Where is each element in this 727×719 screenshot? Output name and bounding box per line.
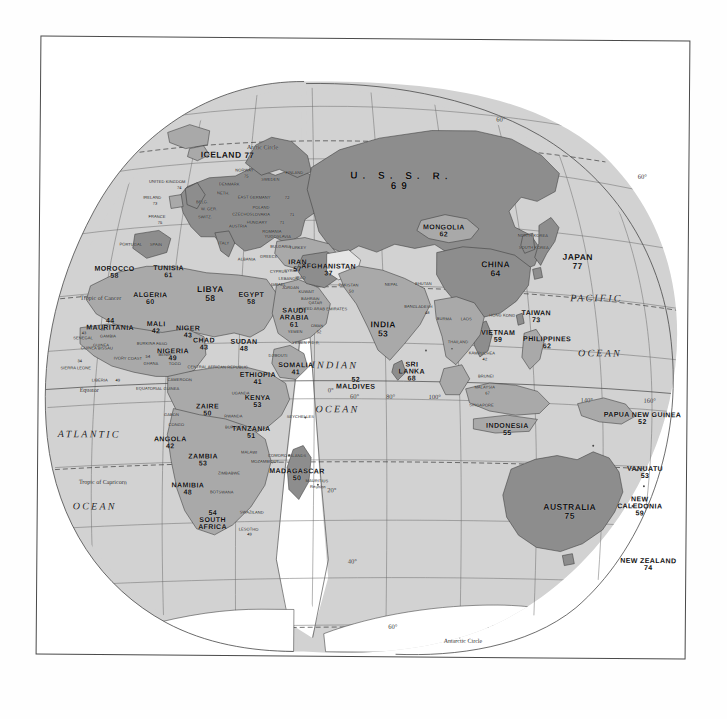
country-value: 48 (231, 345, 258, 353)
country-name: MALDIVES (336, 383, 375, 390)
country-label: 54SOUTHAFRICA (198, 509, 227, 531)
country-value: 53 (370, 329, 395, 338)
small-label: SWEDEN (261, 177, 279, 182)
country-value: 42 (147, 327, 166, 334)
small-label: LAOS (461, 316, 472, 321)
small-label: THAILAND (448, 339, 469, 344)
small-label: EQUATORIAL GUINEA (136, 386, 179, 391)
country-label: AFGHANISTAN37 (301, 262, 356, 277)
country-value: 48 (171, 488, 204, 496)
small-label: ZIMBABWE (218, 470, 240, 475)
country-label: SOMALIA41 (278, 361, 313, 376)
small-label: GAMBIA (100, 333, 116, 338)
ocean-label: OCEAN (316, 403, 360, 414)
small-label: SEYCHELLES (287, 414, 314, 419)
country-value: 62 (423, 230, 465, 238)
small-label: ITALY (218, 240, 229, 245)
small-label: BURMA (437, 316, 452, 321)
small-label: AUSTRIA (229, 223, 247, 228)
small-label: CENTRAL AFRICAN REPUBLIC (188, 364, 249, 369)
country-label: EGYPT58 (238, 291, 264, 306)
small-label: MALAYSIA (474, 384, 495, 389)
ocean-label: PACIFIC (570, 292, 623, 303)
small-label: 52 (317, 329, 322, 334)
country-label: SRILANKA68 (398, 360, 425, 382)
small-label: PORTUGAL (119, 242, 142, 247)
country-value: 53 (188, 460, 218, 468)
graticule-label: 60° (388, 623, 397, 630)
small-label: DENMARK (219, 181, 240, 186)
small-label: JORDAN (282, 285, 299, 290)
small-label: GUINEA (93, 342, 109, 347)
country-label: PHILIPPINES62 (523, 335, 571, 350)
country-value: 41 (278, 368, 313, 376)
small-label: HUNGARY (247, 220, 268, 225)
country-value: 41 (240, 378, 276, 386)
small-label: 67 (485, 390, 490, 395)
small-label: SWAZILAND (240, 510, 264, 515)
country-value: 62 (523, 342, 571, 350)
small-label: 48 (425, 310, 430, 315)
graticule-label: 80° (386, 393, 395, 400)
country-label: U. S. S. R.69 (350, 171, 452, 192)
small-label: YEMEN (288, 329, 303, 334)
country-value: 53 (245, 401, 271, 409)
small-label: 71 (290, 212, 295, 217)
small-label: 75 (244, 174, 249, 179)
country-value: 74 (620, 564, 676, 572)
small-label: 71 (280, 220, 285, 225)
country-value: 50 (269, 474, 324, 482)
small-label: 49 (115, 378, 120, 383)
country-name: ICELAND (201, 150, 242, 160)
country-value: 58 (238, 298, 264, 306)
small-label: FRANCE (148, 214, 165, 219)
graticule-label: 60° (638, 173, 647, 180)
small-label: 74 (177, 185, 182, 190)
small-label: GREECE (260, 254, 278, 259)
country-label: MOROCCO58 (94, 265, 134, 280)
small-label: NORTH KOREA (518, 233, 548, 238)
latitude-circle-label: Tropic of Cancer (80, 295, 121, 301)
country-name: SRILANKA (399, 360, 426, 374)
country-value: 51 (232, 432, 271, 440)
country-label: LIBYA58 (197, 285, 224, 303)
graticule-label: 0° (328, 386, 334, 393)
country-label: ALGERIA60 (133, 291, 167, 306)
country-value: 59 (617, 509, 662, 517)
small-label: 72 (285, 195, 290, 200)
small-label: Reunion (310, 484, 326, 489)
small-label: NEPAL (385, 282, 398, 287)
small-label: 73 (153, 201, 158, 206)
graticule-label: 140° (580, 396, 592, 403)
small-label: DJIBOUTI (268, 353, 287, 358)
small-label: CZECHOSLOVAKIA (232, 211, 270, 216)
country-value: 77 (244, 151, 254, 160)
country-label: CHAD43 (193, 336, 215, 351)
small-label: BRUNEI (478, 373, 494, 378)
small-label: 54 (146, 354, 151, 359)
small-label: CAMEROON (168, 377, 192, 382)
small-label: SINGAPORE (469, 402, 494, 407)
small-label: OMAN (311, 323, 323, 328)
small-label: POLAND (253, 205, 270, 210)
country-value: 58 (197, 294, 224, 303)
small-label: 75 (158, 220, 163, 225)
country-label: MALI42 (147, 320, 166, 335)
small-label: BULGARIA (270, 244, 291, 249)
country-label: SUDAN48 (231, 338, 258, 353)
small-label: EAST GERMANY (238, 195, 271, 200)
graticule-label: 160° (643, 397, 655, 404)
small-label: TURKEY (289, 245, 306, 250)
map-page: ATLANTICOCEANINDIANOCEANPACIFICOCEAN Tro… (0, 0, 727, 719)
ocean-label: OCEAN (578, 347, 622, 358)
ocean-label: ATLANTIC (58, 428, 121, 439)
country-label: NIGERIA49 (157, 347, 189, 362)
graticule-label: 60° (350, 392, 359, 399)
small-label: HONG KONG (489, 312, 515, 317)
small-label: LEBANON (279, 276, 299, 281)
country-label: VANUATU53 (627, 465, 663, 480)
small-label: IVORY COAST (114, 356, 142, 361)
graticule-label: 20° (327, 486, 336, 493)
small-label: YUGOSLAVIA (265, 234, 292, 239)
country-value: 49 (157, 354, 189, 362)
